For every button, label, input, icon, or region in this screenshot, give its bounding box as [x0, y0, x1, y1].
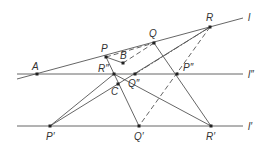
segment-p-prime-r-double-prime	[50, 74, 114, 126]
point-r-prime	[210, 125, 213, 128]
label-q: Q	[149, 28, 157, 39]
point-p-prime	[49, 125, 52, 128]
label-p-prime: P′	[46, 131, 56, 142]
label-a: A	[31, 61, 39, 72]
segment-p-q-dashed	[106, 43, 154, 57]
point-p	[105, 56, 108, 59]
label-q-prime: Q′	[134, 131, 145, 142]
point-p-double-prime	[176, 73, 179, 76]
label-line-l-double-prime: l″	[248, 69, 254, 80]
projective-geometry-diagram: l l″ l′ A P Q R B C R″ Q″ P″ P′ Q′ R′	[0, 0, 269, 146]
label-p: P	[101, 43, 108, 54]
label-q-double-prime: Q″	[128, 78, 140, 89]
label-r: R	[206, 12, 213, 23]
point-r	[209, 26, 212, 29]
segment-r-q-prime-dashed	[139, 27, 210, 126]
point-r-double-prime	[113, 73, 116, 76]
point-a	[36, 73, 39, 76]
label-c: C	[111, 86, 119, 97]
label-p-double-prime: P″	[183, 62, 194, 73]
point-q	[153, 42, 156, 45]
label-r-prime: R′	[206, 131, 216, 142]
label-r-double-prime: R″	[98, 63, 109, 74]
point-b	[122, 62, 125, 65]
point-q-prime	[138, 125, 141, 128]
segment-q-r-prime	[154, 43, 211, 126]
point-q-double-prime	[134, 73, 137, 76]
label-line-l: l	[248, 12, 251, 23]
label-b: B	[120, 50, 127, 61]
label-line-l-prime: l′	[248, 121, 253, 132]
